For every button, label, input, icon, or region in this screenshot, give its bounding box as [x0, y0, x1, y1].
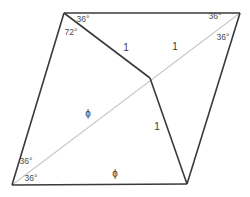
figure-canvas [0, 0, 250, 197]
geometry-figure: 36° 72° 36° 36° 36° 36° 1 1 1 ϕ ϕ [0, 0, 250, 197]
edge-lower-chord [150, 78, 187, 184]
edge-main-diagonal [12, 13, 240, 185]
edge-bottom [12, 184, 187, 185]
edge-left [12, 13, 64, 185]
edge-upper-chord [64, 13, 150, 78]
edge-right [187, 13, 240, 184]
